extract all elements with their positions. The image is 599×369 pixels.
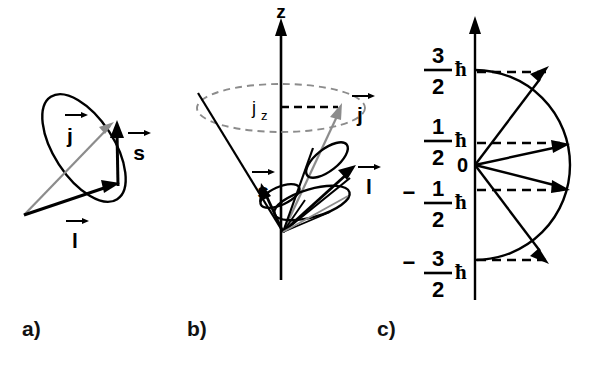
origin-label-c: 0 bbox=[457, 154, 468, 176]
level-numerator: 3 bbox=[432, 246, 444, 271]
level-numerator: 1 bbox=[432, 114, 444, 139]
level-unit-hbar: ħ bbox=[455, 260, 467, 284]
s-label-a: s bbox=[133, 141, 145, 164]
level-unit-hbar: ħ bbox=[455, 190, 467, 214]
j-label-b: j bbox=[356, 103, 363, 126]
level-denominator: 2 bbox=[432, 207, 444, 232]
jz-sublabel-b: z bbox=[261, 108, 268, 123]
l-label-b: l bbox=[366, 175, 372, 198]
level-unit-hbar: ħ bbox=[455, 57, 467, 81]
level-denominator: 2 bbox=[432, 74, 444, 99]
jz-label-b: j bbox=[251, 98, 256, 118]
z-axis-label-b: z bbox=[276, 1, 286, 22]
level-numerator: 3 bbox=[432, 43, 444, 68]
level-denominator: 2 bbox=[432, 277, 444, 302]
level-sign: − bbox=[403, 250, 416, 275]
angular-momentum-figure: j s l a) z j z bbox=[0, 0, 599, 369]
panel-label-a: a) bbox=[22, 317, 41, 340]
panel-label-c: c) bbox=[377, 317, 396, 340]
l-label-a: l bbox=[72, 229, 78, 252]
level-unit-hbar: ħ bbox=[455, 128, 467, 152]
level-numerator: 1 bbox=[432, 176, 444, 201]
s-vector-line-a bbox=[117, 132, 118, 186]
level-denominator: 2 bbox=[432, 145, 444, 170]
panel-label-b: b) bbox=[187, 317, 207, 340]
level-sign: − bbox=[403, 180, 416, 205]
s-label-b: s bbox=[257, 179, 269, 202]
j-label-a: j bbox=[66, 124, 73, 147]
